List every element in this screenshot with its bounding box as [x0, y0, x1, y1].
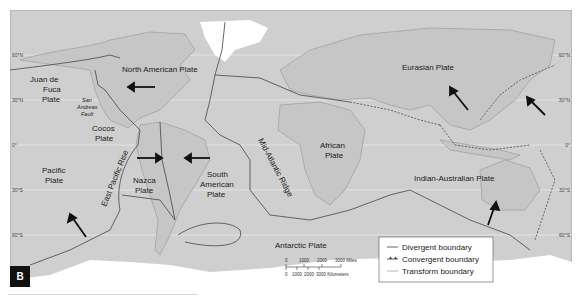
label-south-american-3: Plate [207, 190, 226, 199]
svg-text:0°: 0° [565, 142, 570, 148]
scale-miles-1000: 1000 [299, 258, 310, 263]
svg-text:60°N: 60°N [559, 52, 571, 58]
label-north-american-plate: North American Plate [122, 65, 198, 74]
label-nazca-2: Plate [135, 186, 154, 195]
panel-label: B [16, 271, 23, 282]
label-san-andreas-2: Andreas [76, 104, 98, 110]
scale-miles-3000: 3000 Miles [335, 258, 358, 263]
svg-text:60°S: 60°S [559, 232, 571, 238]
label-south-american-2: American [200, 180, 234, 189]
svg-text:60°N: 60°N [12, 52, 24, 58]
scale-km-1000: 1000 [292, 272, 303, 277]
label-juan-de-fuca-2: Fuca [43, 85, 61, 94]
svg-text:0°: 0° [12, 142, 17, 148]
svg-text:30°S: 30°S [12, 187, 24, 193]
legend-divergent-label: Divergent boundary [402, 243, 472, 252]
legend: Divergent boundary Convergent boundary T… [379, 237, 493, 282]
legend-transform-label: Transform boundary [402, 267, 474, 276]
scale-miles-2000: 2000 [317, 258, 328, 263]
label-indian-australian-plate: Indian-Australian Plate [414, 174, 495, 183]
label-san-andreas-1: San [82, 97, 92, 103]
label-antarctic-plate: Antarctic Plate [275, 241, 327, 250]
label-cocos-2: Plate [95, 134, 114, 143]
label-juan-de-fuca-1: Juan de [30, 75, 59, 84]
svg-text:30°N: 30°N [12, 97, 24, 103]
label-south-american-1: South [207, 170, 228, 179]
label-san-andreas-3: Fault [81, 111, 94, 117]
divider [8, 294, 198, 295]
label-african-1: African [320, 141, 345, 150]
legend-convergent-label: Convergent boundary [402, 255, 479, 264]
label-pacific-2: Plate [45, 176, 64, 185]
label-juan-de-fuca-3: Plate [42, 95, 61, 104]
panel-badge: B [10, 266, 30, 287]
label-african-2: Plate [325, 151, 344, 160]
svg-text:30°S: 30°S [559, 187, 571, 193]
plate-tectonics-map: 60°N 30°N 0° 30°S 60°S 60°N 30°N 0° 30°S… [10, 10, 572, 287]
label-pacific-1: Pacific [42, 166, 66, 175]
scale-km-2000: 2000 [304, 272, 315, 277]
svg-text:30°N: 30°N [559, 97, 571, 103]
label-eurasian-plate: Eurasian Plate [402, 63, 455, 72]
label-cocos-1: Cocos [92, 124, 115, 133]
scale-km-3000: 3000 Kilometers [316, 272, 349, 277]
svg-text:60°S: 60°S [12, 232, 24, 238]
label-nazca-1: Nazca [133, 176, 156, 185]
